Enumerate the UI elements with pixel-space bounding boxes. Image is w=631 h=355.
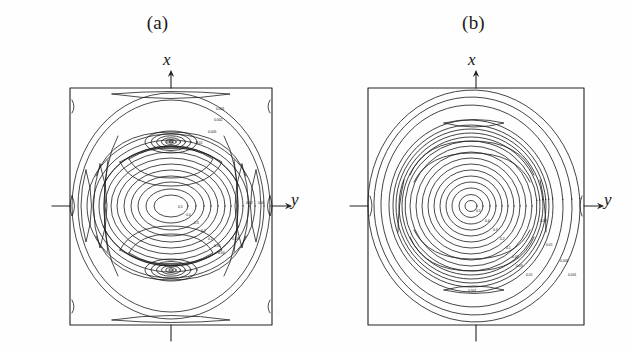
panel-b-contour-labels: 0.5 0.4 0.3 0.2 0.1 0.05 0.03 0.01 0.02 …: [468, 209, 577, 293]
svg-text:0.04: 0.04: [218, 251, 225, 255]
svg-text:0.1: 0.1: [506, 246, 511, 250]
svg-text:0.3: 0.3: [493, 228, 498, 232]
svg-text:0.4: 0.4: [186, 213, 191, 217]
svg-text:0.05: 0.05: [512, 255, 519, 259]
svg-text:0.01: 0.01: [258, 201, 265, 205]
svg-text:0.01: 0.01: [526, 273, 533, 277]
panel-a-plot: 0.001 0.002 0.005 0.01 0.05 0.5 0.4 0.3 …: [0, 0, 315, 355]
svg-text:0.005: 0.005: [208, 130, 217, 134]
svg-text:0.03: 0.03: [232, 237, 239, 241]
svg-text:0.02: 0.02: [540, 219, 547, 223]
svg-text:0.2: 0.2: [500, 237, 505, 241]
svg-text:0.005: 0.005: [560, 259, 569, 263]
svg-text:0.001: 0.001: [216, 107, 225, 111]
panel-b-plot: 0.5 0.4 0.3 0.2 0.1 0.05 0.03 0.01 0.02 …: [316, 0, 631, 355]
svg-text:0.5: 0.5: [178, 205, 183, 209]
svg-text:0.001: 0.001: [568, 273, 577, 277]
svg-text:0.05: 0.05: [214, 244, 221, 248]
contour-figure: (a) x y: [0, 0, 631, 355]
svg-text:0.03: 0.03: [516, 264, 523, 268]
svg-text:0.002: 0.002: [214, 118, 223, 122]
svg-text:0.4: 0.4: [485, 219, 490, 223]
svg-text:0.01: 0.01: [196, 141, 203, 145]
svg-text:0.01: 0.01: [546, 243, 553, 247]
svg-text:0.001: 0.001: [468, 289, 477, 293]
svg-text:0.1: 0.1: [208, 237, 213, 241]
svg-text:0.3: 0.3: [194, 221, 199, 225]
panel-b: (b) x y: [316, 0, 631, 355]
panel-a-box: [70, 88, 272, 325]
svg-text:0.5: 0.5: [476, 209, 481, 213]
panel-a: (a) x y: [0, 0, 315, 355]
svg-text:0.02: 0.02: [246, 201, 253, 205]
svg-text:0.2: 0.2: [201, 229, 206, 233]
svg-text:0.05: 0.05: [166, 140, 173, 144]
